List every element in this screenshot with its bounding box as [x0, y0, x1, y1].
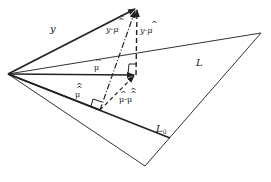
vector-mu-hat-minus-mu-hat-hat: [100, 76, 134, 110]
label-y-minus-mu-hat-hat: y-μ: [106, 26, 118, 34]
label-y-minus-mu-hat: y-μ: [140, 27, 152, 35]
vector-mu-hat: [8, 74, 134, 75]
hat-mark-mu: ^: [95, 58, 102, 66]
right-angle-marker-mu-hat-hat: [91, 99, 102, 106]
projection-diagram: y y-μ ^ ^ y-μ ^ μ ^ μ ^ ^ μ-μ ^ ^ ^ L L0: [0, 0, 271, 182]
hat-mark-diff-1: ^: [120, 90, 127, 98]
hat-mark: ^: [151, 20, 158, 28]
vector-y-minus-mu-hat: [136, 10, 137, 75]
label-y: y: [50, 24, 56, 34]
label-subspace-L0: L0: [156, 124, 166, 135]
label-plane-L: L: [196, 58, 203, 68]
hat-mark-diff-3: ^: [130, 87, 137, 95]
hat-mark-mu-hh-2: ^: [76, 82, 83, 90]
double-hat-mark-2: ^: [118, 14, 125, 22]
plane-L-outline: [8, 33, 261, 166]
